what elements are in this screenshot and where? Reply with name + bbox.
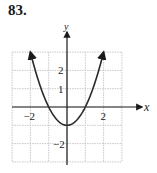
- axes: [12, 32, 142, 165]
- svg-text:−2: −2: [23, 110, 35, 122]
- svg-text:x: x: [143, 100, 150, 114]
- svg-text:−2: −2: [53, 138, 65, 150]
- tick-labels: xy−2221−2: [23, 21, 149, 150]
- parabola-graph: xy−2221−2: [0, 0, 157, 173]
- svg-text:2: 2: [58, 64, 64, 76]
- svg-text:2: 2: [101, 110, 107, 122]
- svg-text:y: y: [63, 21, 69, 32]
- svg-text:1: 1: [58, 83, 64, 95]
